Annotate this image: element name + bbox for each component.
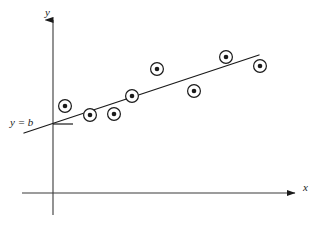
y-axis-label: y [44,6,50,18]
data-point-marker [220,51,233,64]
data-points-group [59,51,267,122]
data-point-marker [84,109,97,122]
data-point-dot [112,112,117,117]
data-point-marker [151,63,164,76]
least-squares-line [24,55,259,133]
data-point-dot [155,67,160,72]
intercept-group: y = b [9,116,73,128]
data-point-dot [192,89,197,94]
regression-line-group [24,55,259,133]
data-point-marker [254,60,267,73]
data-point-marker [188,85,201,98]
data-point-dot [63,104,68,109]
data-point-dot [258,64,263,69]
data-point-marker [126,90,139,103]
data-point-dot [224,55,229,60]
data-point-marker [108,108,121,121]
regression-scatter-figure: x y y = b [0,0,320,231]
data-point-dot [130,94,135,99]
figure-container: x y y = b [0,0,320,231]
intercept-equation-label: y = b [9,116,34,128]
x-axis-label: x [302,181,308,193]
data-point-dot [88,113,93,118]
data-point-marker [59,100,72,113]
